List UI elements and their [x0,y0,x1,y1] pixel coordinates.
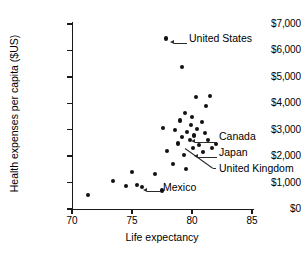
data-point [185,130,189,134]
y-tick-mark [67,23,72,24]
x-tick-mark [191,209,192,214]
y-tick-label: $4,000 [235,98,301,108]
data-point [204,104,208,108]
scatter-chart-figure: $0$1,000$2,000$3,000$4,000$5,000$6,000$7… [0,0,301,256]
x-tick-label: 75 [117,216,147,226]
data-point [200,120,204,124]
annotation-label-mexico: Mexico [163,182,196,193]
data-point [161,126,165,130]
x-tick-mark [131,209,132,214]
y-tick-mark [67,182,72,183]
leader-line-h-united-kingdom [213,168,216,169]
x-axis-line [70,209,254,210]
data-point [182,153,186,157]
data-point [178,118,182,122]
data-point [203,131,207,135]
data-point [153,172,157,176]
leader-line-united-kingdom [185,148,214,169]
y-tick-mark [67,76,72,77]
annotation-label-japan: Japan [219,147,248,158]
leader-line-canada [195,142,217,143]
data-point [194,95,198,99]
y-tick-label: $7,000 [235,19,301,29]
arrowhead-mexico [143,188,147,192]
y-axis-title: Health expenses per capita ($US) [9,24,20,204]
x-tick-mark [71,209,72,214]
data-point [176,141,180,145]
y-tick-mark [67,155,72,156]
data-point [201,150,205,154]
leader-line-mexico [147,191,161,192]
data-point [208,94,212,98]
data-point [184,167,188,171]
data-point [191,146,195,150]
annotation-label-united-kingdom: United Kingdom [219,163,294,174]
x-tick-label: 70 [57,216,87,226]
data-point [86,193,90,197]
annotation-label-united-states: United States [189,33,252,44]
x-axis-title: Life expectancy [72,232,252,243]
data-point [124,184,128,188]
y-tick-mark [67,50,72,51]
data-point [192,133,196,137]
y-tick-mark [67,103,72,104]
data-point [171,162,175,166]
arrowhead-canada [191,139,195,143]
y-tick-label: $6,000 [235,45,301,55]
leader-line-japan [198,157,217,158]
x-tick-label: 80 [177,216,207,226]
data-point [180,65,184,69]
y-axis-line [72,22,73,210]
data-point [130,170,134,174]
data-point [189,123,193,127]
data-point [165,149,169,153]
data-point [195,127,199,131]
x-tick-label: 85 [237,216,267,226]
annotation-label-canada: Canada [219,131,256,142]
data-point [111,179,115,183]
y-tick-mark [67,129,72,130]
data-point [173,128,177,132]
y-tick-label: $5,000 [235,72,301,82]
y-tick-label: $1,000 [235,178,301,188]
data-point-united-kingdom [197,143,201,147]
leader-line-united-states [174,43,187,44]
data-point-japan [210,146,214,150]
data-point [183,111,187,115]
data-point-mexico [135,183,139,187]
x-tick-mark [251,209,252,214]
data-point [180,135,184,139]
arrowhead-united-states [170,40,174,44]
data-point [190,115,194,119]
y-tick-label: $0 [235,204,301,214]
data-point-united-states [164,36,168,40]
